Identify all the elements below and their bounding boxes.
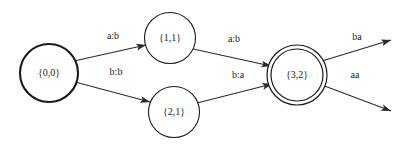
edge-label-q11-q32: a:b [228, 33, 240, 44]
state-label-q00: {0,0} [38, 67, 60, 78]
edge-label-q00-q11: a:b [107, 30, 119, 41]
edge-q32-out-upper [322, 40, 391, 61]
edge-q21-q32 [197, 84, 272, 103]
state-label-q11: {1,1} [159, 32, 181, 43]
edge-label-q21-q32: b:a [232, 69, 245, 80]
edge-q00-q11 [74, 45, 146, 61]
edge-q32-out-lower [322, 85, 391, 111]
edge-label-out-upper: ba [352, 31, 362, 42]
fsa-diagram-canvas: {0,0} {1,1} {2,1} {3,2} a:b b:b a:b b:a … [0, 0, 405, 149]
state-label-q21: {2,1} [163, 106, 185, 117]
fsa-diagram-svg: {0,0} {1,1} {2,1} {3,2} a:b b:b a:b b:a … [0, 0, 405, 149]
state-label-q32: {3,2} [286, 69, 308, 80]
edge-q00-q21 [75, 82, 150, 102]
edge-label-q00-q21: b:b [110, 66, 123, 77]
edge-label-out-lower: aa [351, 69, 360, 80]
nodes-group [20, 13, 327, 138]
edge-q11-q32 [193, 49, 271, 66]
